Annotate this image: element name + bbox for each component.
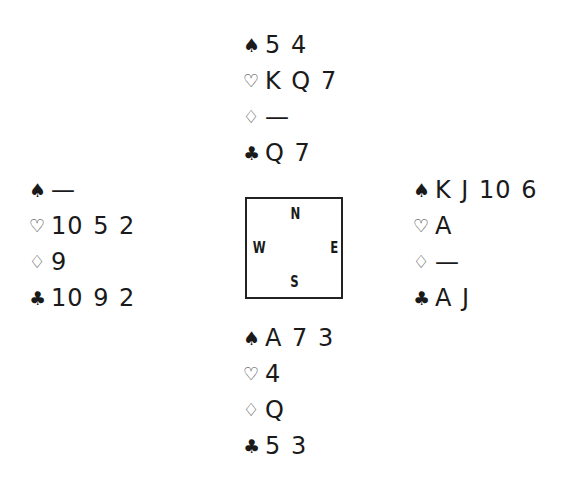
spade-icon: ♠ [243, 30, 265, 60]
south-clubs-row: ♣ 5 3 [243, 431, 307, 461]
west-diamonds-cards: 9 [51, 247, 67, 277]
diamond-icon: ♢ [413, 247, 435, 277]
south-spades-cards: A 7 3 [265, 323, 334, 353]
south-clubs-cards: 5 3 [265, 431, 307, 461]
west-clubs-row: ♣ 10 9 2 [29, 283, 135, 313]
south-hearts-row: ♡ 4 [243, 359, 281, 389]
heart-icon: ♡ [29, 211, 51, 241]
east-hearts-row: ♡ A [413, 211, 452, 241]
north-spades-cards: 5 4 [265, 30, 307, 60]
heart-icon: ♡ [243, 66, 265, 96]
heart-icon: ♡ [243, 359, 265, 389]
west-clubs-cards: 10 9 2 [51, 283, 135, 313]
club-icon: ♣ [29, 283, 51, 313]
north-hearts-cards: K Q 7 [265, 66, 337, 96]
club-icon: ♣ [413, 283, 435, 313]
east-hearts-cards: A [435, 211, 452, 241]
east-diamonds-cards: — [435, 247, 460, 277]
spade-icon: ♠ [413, 175, 435, 205]
north-spades-row: ♠ 5 4 [243, 30, 307, 60]
east-spades-row: ♠ K J 10 6 [413, 175, 538, 205]
north-diamonds-cards: — [265, 102, 290, 132]
spade-icon: ♠ [243, 323, 265, 353]
west-hearts-cards: 10 5 2 [51, 211, 135, 241]
club-icon: ♣ [243, 431, 265, 461]
spade-icon: ♠ [29, 175, 51, 205]
club-icon: ♣ [243, 138, 265, 168]
east-clubs-cards: A J [435, 283, 470, 313]
compass-east-label: E [330, 239, 338, 257]
north-clubs-row: ♣ Q 7 [243, 138, 311, 168]
north-clubs-cards: Q 7 [265, 138, 311, 168]
west-spades-cards: — [51, 175, 76, 205]
north-hearts-row: ♡ K Q 7 [243, 66, 337, 96]
compass-west-label: W [253, 239, 266, 257]
south-diamonds-cards: Q [265, 395, 285, 425]
diamond-icon: ♢ [243, 395, 265, 425]
south-spades-row: ♠ A 7 3 [243, 323, 334, 353]
heart-icon: ♡ [413, 211, 435, 241]
east-clubs-row: ♣ A J [413, 283, 470, 313]
compass-box: N W E S [245, 197, 343, 299]
north-diamonds-row: ♢ — [243, 102, 290, 132]
diamond-icon: ♢ [29, 247, 51, 277]
west-diamonds-row: ♢ 9 [29, 247, 67, 277]
south-diamonds-row: ♢ Q [243, 395, 285, 425]
east-spades-cards: K J 10 6 [435, 175, 538, 205]
west-hearts-row: ♡ 10 5 2 [29, 211, 135, 241]
east-diamonds-row: ♢ — [413, 247, 460, 277]
diamond-icon: ♢ [243, 102, 265, 132]
west-spades-row: ♠ — [29, 175, 76, 205]
compass-south-label: S [290, 273, 298, 291]
south-hearts-cards: 4 [265, 359, 281, 389]
compass-north-label: N [290, 205, 300, 223]
